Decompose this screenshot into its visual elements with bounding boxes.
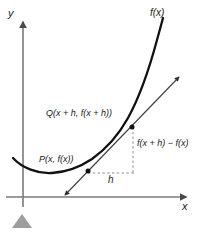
point-q-label: Q(x + h, f(x + h)): [46, 109, 112, 118]
function-curve-label: f(x): [150, 8, 164, 18]
y-axis-label: y: [8, 8, 14, 19]
point-q-marker: [130, 125, 135, 130]
point-p-label: P(x, f(x)): [39, 155, 74, 164]
rise-annotation-label: f(x + h) − f(x): [137, 139, 189, 148]
secant-line: [65, 77, 179, 195]
run-annotation-label: h: [108, 175, 114, 185]
page-corner-marker: [12, 214, 32, 228]
point-p-marker: [86, 169, 91, 174]
x-axis-label: x: [182, 201, 188, 212]
function-curve: [13, 18, 163, 173]
calculus-secant-diagram: y x f(x) Q(x + h, f(x + h)) P(x, f(x)) f…: [0, 0, 208, 233]
